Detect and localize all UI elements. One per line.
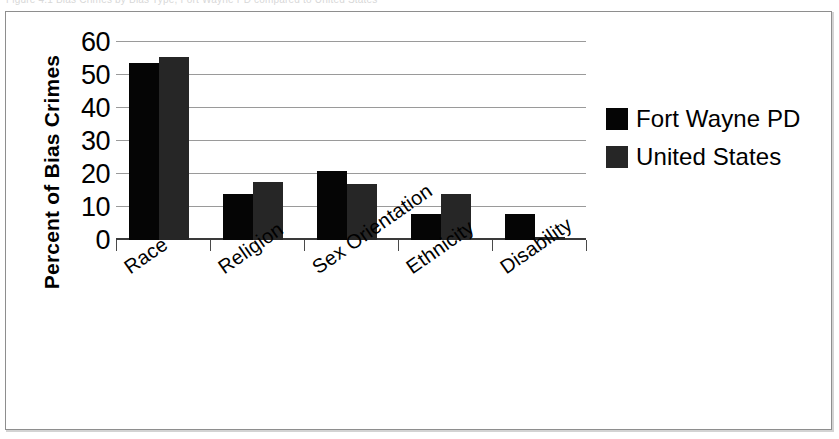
x-axis-category-labels: RaceReligionSex OrientationEthnicityDisa…	[116, 244, 616, 364]
legend-item: Fort Wayne PD	[606, 100, 831, 138]
bar-group	[210, 42, 304, 240]
bar	[129, 63, 159, 240]
bar-group	[492, 42, 586, 240]
figure-caption-text: Figure 4.1 Bias Crimes by Bias Type, For…	[0, 0, 839, 5]
y-tick-label-0: 0	[95, 227, 110, 254]
bar	[159, 57, 189, 240]
bar-group	[116, 42, 210, 240]
bar	[317, 171, 347, 240]
bar	[223, 194, 253, 240]
legend-label: Fort Wayne PD	[636, 106, 800, 132]
y-tick-label-30: 30	[81, 128, 110, 155]
bars-layer	[116, 42, 586, 240]
y-tick-label-20: 20	[81, 161, 110, 188]
figure-root: Figure 4.1 Bias Crimes by Bias Type, For…	[0, 0, 839, 439]
legend-swatch-icon	[606, 108, 628, 130]
figure-caption-cropped: Figure 4.1 Bias Crimes by Bias Type, For…	[0, 0, 839, 11]
legend-label: United States	[636, 144, 781, 170]
y-tick-label-50: 50	[81, 62, 110, 89]
frame-shadow-right	[832, 12, 834, 432]
y-axis-tick-labels: 6050403020100	[46, 42, 110, 240]
legend-item: United States	[606, 138, 831, 176]
plot-area	[116, 42, 586, 240]
frame-shadow-bottom	[6, 430, 834, 432]
y-tick-label-10: 10	[81, 194, 110, 221]
chart-legend: Fort Wayne PDUnited States	[606, 100, 831, 176]
chart-frame: Percent of Bias Crimes 6050403020100 Rac…	[5, 11, 832, 430]
legend-swatch-icon	[606, 146, 628, 168]
y-tick-label-40: 40	[81, 95, 110, 122]
y-tick-label-60: 60	[81, 29, 110, 56]
